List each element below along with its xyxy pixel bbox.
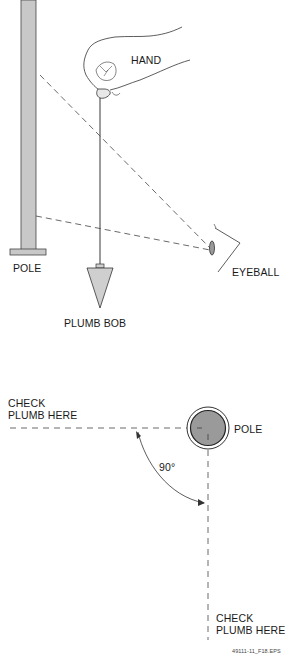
pole-label: POLE: [13, 262, 41, 274]
pole-top-label: POLE: [234, 423, 262, 435]
plumb-bob-icon: [87, 264, 113, 308]
eyeball-icon: [210, 224, 241, 272]
diagram-canvas: [0, 0, 295, 658]
figure-id: 49111-11_F18.EPS: [232, 645, 281, 657]
sight-lines: [36, 75, 210, 250]
check-plumb-bottom-line1: CHECK: [216, 612, 253, 624]
plan-view-lines: [10, 428, 208, 640]
check-plumb-left-line1: CHECK: [8, 397, 45, 409]
pole-top-view: [187, 407, 229, 449]
hand-label: HAND: [131, 54, 161, 66]
check-plumb-left-line2: PLUMB HERE: [8, 409, 77, 421]
angle-label: 90°: [159, 461, 175, 473]
check-plumb-bottom-line2: PLUMB HERE: [216, 624, 285, 636]
plumb-bob-label: PLUMB BOB: [64, 317, 126, 329]
eyeball-label: EYEBALL: [232, 266, 279, 278]
